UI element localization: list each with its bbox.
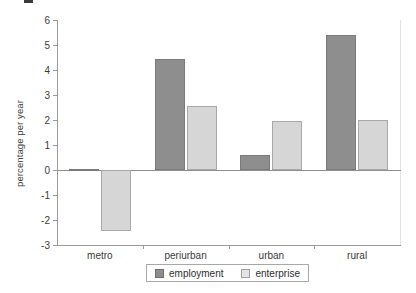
legend-item-employment: employment — [155, 268, 223, 279]
y-axis-label: percentage per year — [14, 69, 25, 219]
x-category-label-periurban: periurban — [164, 250, 206, 261]
plot-right-border — [400, 20, 401, 245]
y-tick-mark — [53, 245, 57, 246]
chart-legend: employment enterprise — [146, 264, 309, 282]
employment-swatch-icon — [155, 269, 164, 278]
y-tick-label: -3 — [41, 240, 50, 251]
y-tick-label: 2 — [44, 115, 50, 126]
y-tick-mark — [53, 20, 57, 21]
y-tick-mark — [53, 145, 57, 146]
y-tick-label: -1 — [41, 190, 50, 201]
y-tick-label: 0 — [44, 165, 50, 176]
x-group-tick — [229, 245, 230, 249]
y-tick-mark — [53, 195, 57, 196]
bar-urban-enterprise — [272, 121, 302, 170]
bar-rural-employment — [326, 35, 356, 170]
bar-chart: percentage per year 6543210-1-2-3 metrop… — [0, 0, 416, 293]
bar-periurban-enterprise — [187, 106, 217, 170]
bar-periurban-employment — [155, 59, 185, 170]
y-tick-label: 1 — [44, 140, 50, 151]
y-tick-mark — [53, 70, 57, 71]
bar-urban-employment — [240, 155, 270, 170]
x-group-tick — [143, 245, 144, 249]
legend-item-enterprise: enterprise — [241, 268, 299, 279]
y-axis-line — [57, 20, 58, 245]
y-tick-label: 4 — [44, 65, 50, 76]
x-category-label-urban: urban — [259, 250, 285, 261]
cropped-caption-artifact — [24, 0, 33, 3]
y-tick-mark — [53, 170, 57, 171]
y-tick-mark — [53, 120, 57, 121]
bar-metro-employment — [69, 169, 99, 171]
legend-label-employment: employment — [169, 268, 223, 279]
x-category-label-metro: metro — [87, 250, 113, 261]
plot-area: 6543210-1-2-3 metroperiurbanurbanrural — [57, 20, 400, 245]
x-group-tick — [314, 245, 315, 249]
bar-metro-enterprise — [101, 170, 131, 231]
bar-rural-enterprise — [358, 120, 388, 170]
x-category-label-rural: rural — [347, 250, 367, 261]
y-tick-label: -2 — [41, 215, 50, 226]
enterprise-swatch-icon — [241, 269, 250, 278]
y-tick-label: 5 — [44, 40, 50, 51]
y-tick-mark — [53, 45, 57, 46]
y-tick-label: 6 — [44, 15, 50, 26]
legend-label-enterprise: enterprise — [255, 268, 299, 279]
y-tick-mark — [53, 220, 57, 221]
y-tick-mark — [53, 95, 57, 96]
y-tick-label: 3 — [44, 90, 50, 101]
